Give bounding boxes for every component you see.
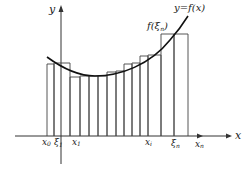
y-axis-label: y [48, 3, 56, 16]
curve-label: y=f(x) [173, 2, 205, 13]
riemann-sum-diagram: y x y=f(x) f(ξn) x0 ξ1 x1 xi ξn xn [0, 0, 245, 174]
tick-x0: x0 [42, 137, 51, 147]
tick-x1: x1 [72, 137, 81, 147]
riemann-rectangles [47, 34, 188, 136]
x-axis-label: x [235, 129, 242, 142]
xn-arrow-icon [197, 134, 203, 139]
tick-xin: ξn [171, 138, 180, 149]
sample-point-label: f(ξn) [146, 20, 168, 32]
tick-labels: x0 ξ1 x1 xi ξn xn [42, 137, 204, 149]
x-axis-arrow-icon [226, 134, 232, 139]
tick-xn: xn [195, 139, 204, 149]
svg-text:f(ξn): f(ξn) [146, 20, 168, 32]
y-axis-arrow-icon [59, 5, 64, 12]
tick-xi: xi [145, 137, 152, 147]
